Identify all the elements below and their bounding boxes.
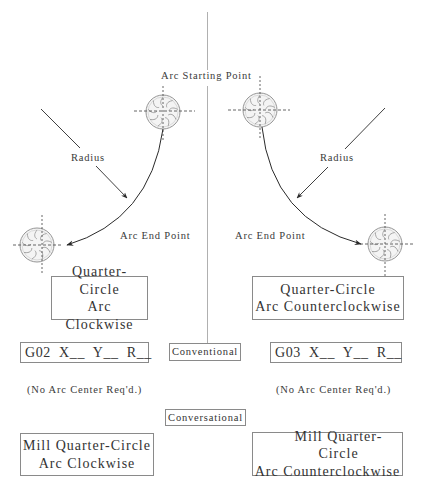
mill-counterclockwise-line1: Mill Quarter-Circle (253, 428, 402, 463)
conventional-tag: Conventional (169, 343, 241, 361)
mill-counterclockwise-line2: Arc Counterclockwise (255, 463, 401, 481)
arc-start-label: Arc Starting Point (161, 70, 252, 81)
arc-path-counterclockwise (262, 127, 361, 244)
mill-clockwise-box: Mill Quarter-Circle Arc Clockwise (20, 433, 154, 476)
mill-counterclockwise-box: Mill Quarter-Circle Arc Counterclockwise (252, 432, 403, 476)
radius-label-left: Radius (71, 152, 105, 163)
arc-path-clockwise (67, 129, 163, 245)
no-arc-center-note-left: (No Arc Center Req'd.) (27, 384, 142, 395)
conversational-label: Conversational (168, 411, 243, 424)
g02-code-text: G02 X__ Y__ R__ (25, 344, 152, 362)
clockwise-title-line2: Arc Clockwise (52, 298, 147, 333)
conventional-label: Conventional (172, 345, 238, 358)
mill-clockwise-line2: Arc Clockwise (39, 455, 136, 473)
g03-code-text: G03 X__ Y__ R__ (275, 344, 402, 362)
arc-end-label-right: Arc End Point (235, 230, 305, 241)
arc-end-label-left: Arc End Point (120, 230, 190, 241)
counterclockwise-title-box: Quarter-Circle Arc Counterclockwise (252, 276, 404, 320)
radius-label-right: Radius (320, 152, 354, 163)
arc-diagram: Arc Starting Point Radius Radius Arc End… (0, 0, 424, 491)
clockwise-title-box: Quarter-Circle Arc Clockwise (51, 276, 148, 320)
clockwise-title-line1: Quarter-Circle (52, 263, 147, 298)
no-arc-center-note-right: (No Arc Center Req'd.) (276, 384, 391, 395)
counterclockwise-title-line1: Quarter-Circle (280, 281, 375, 299)
conversational-tag: Conversational (165, 409, 246, 426)
g02-code-box: G02 X__ Y__ R__ (20, 342, 149, 363)
g03-code-box: G03 X__ Y__ R__ (270, 342, 402, 363)
counterclockwise-title-line2: Arc Counterclockwise (255, 298, 401, 316)
mill-clockwise-line1: Mill Quarter-Circle (23, 437, 151, 455)
